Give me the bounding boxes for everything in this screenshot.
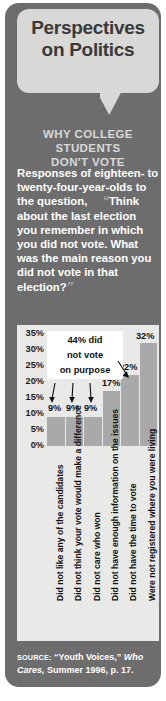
x-label-1: Did not think your vote would make a dif… bbox=[73, 405, 83, 601]
y-tick-0: 0% bbox=[31, 441, 44, 450]
x-label-slot: Did not have enough information on the i… bbox=[102, 451, 120, 601]
y-tick-25: 25% bbox=[26, 361, 44, 370]
speech-bubble-tail-icon bbox=[100, 89, 122, 115]
y-tick-5: 5% bbox=[31, 425, 44, 434]
chart-panel: 35% 30% 25% 20% 15% 10% 5% 0% 9% 9% 9% 1… bbox=[17, 325, 159, 641]
kicker-heading: WHY COLLEGE STUDENTS DON'T VOTE bbox=[15, 127, 161, 169]
x-label-5: Were not registered where you were livin… bbox=[147, 429, 157, 601]
y-tick-15: 15% bbox=[26, 393, 44, 402]
bar-2 bbox=[84, 417, 102, 446]
x-label-slot: Did not care who won bbox=[84, 451, 102, 601]
bar-label-2: 9% bbox=[84, 403, 97, 413]
page-title-line2: on Politics bbox=[17, 39, 159, 61]
intro-quote: Think about the last election you rememb… bbox=[17, 195, 151, 292]
source-rest: Summer 1996, p. 17. bbox=[47, 665, 134, 675]
bar-slot bbox=[121, 333, 140, 446]
page-title-line1: Perspectives bbox=[17, 17, 159, 39]
source-title: “Youth Voices,” bbox=[54, 652, 121, 662]
bar-label-3: 17% bbox=[102, 378, 120, 388]
chart-y-axis: 35% 30% 25% 20% 15% 10% 5% 0% bbox=[17, 329, 45, 449]
bar-label-5: 32% bbox=[136, 331, 154, 341]
kicker-line1: WHY COLLEGE STUDENTS bbox=[15, 127, 161, 155]
chart-annotation-callout: 44% did not vote on purpose bbox=[47, 331, 123, 379]
x-label-slot: Did not think your vote would make a dif… bbox=[65, 451, 83, 601]
y-tick-30: 30% bbox=[26, 345, 44, 354]
poster-card: Perspectives on Politics WHY COLLEGE STU… bbox=[5, 3, 161, 687]
y-tick-35: 35% bbox=[26, 329, 44, 338]
x-label-4: Did not have the time to vote bbox=[128, 484, 138, 601]
x-label-slot: Did not have the time to vote bbox=[120, 451, 138, 601]
page-title: Perspectives on Politics bbox=[17, 17, 159, 61]
x-label-slot: Were not registered where you were livin… bbox=[139, 451, 157, 601]
bar-label-0: 9% bbox=[48, 403, 61, 413]
x-label-2: Did not care who won bbox=[92, 512, 102, 601]
callout-line3: on purpose bbox=[47, 363, 123, 378]
x-label-3: Did not have enough information on the i… bbox=[110, 409, 120, 601]
bar-4 bbox=[121, 375, 139, 446]
source-label: SOURCE: bbox=[17, 653, 52, 662]
bar-0 bbox=[47, 417, 65, 446]
poster: Perspectives on Politics WHY COLLEGE STU… bbox=[0, 0, 166, 701]
callout-line2: not vote bbox=[47, 348, 123, 363]
x-label-slot: Did not like any of the candidates bbox=[47, 451, 65, 601]
source-note: SOURCE: “Youth Voices,” Who Cares, Summe… bbox=[17, 651, 161, 676]
y-tick-20: 20% bbox=[26, 377, 44, 386]
chart-x-axis-labels: Did not like any of the candidatesDid no… bbox=[47, 451, 157, 601]
callout-line1: 44% did bbox=[47, 333, 123, 348]
intro-paragraph: Responses of eighteen- to twenty-four-ye… bbox=[17, 166, 159, 294]
x-label-0: Did not like any of the candidates bbox=[55, 464, 65, 601]
quote-close-mark: ” bbox=[67, 279, 74, 294]
y-tick-10: 10% bbox=[26, 409, 44, 418]
